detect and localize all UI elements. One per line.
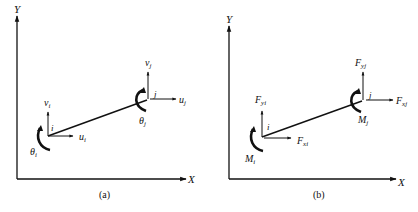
x-axis-label: X: [187, 173, 196, 185]
mj-label: Mj: [357, 114, 368, 127]
mi-moment-icon: [251, 129, 263, 151]
u-i-label: ui: [79, 131, 86, 144]
fyj-label: Fyj: [354, 57, 366, 70]
node-j: j Fyj Fxj Mj: [351, 57, 407, 127]
panel-a-caption: (a): [99, 189, 110, 201]
panel-b: Y X i Fyi Fxi Mi j Fyj Fxj Mj (b): [226, 13, 407, 201]
panel-a: Y X i vi ui θi j vj uj θj (a): [14, 3, 196, 201]
fyi-label: Fyi: [254, 94, 266, 107]
u-j-label: uj: [179, 94, 186, 107]
v-j-label: vj: [145, 57, 151, 70]
beam-element: [262, 101, 362, 137]
fxj-label: Fxj: [395, 95, 407, 108]
y-axis-label: Y: [14, 3, 22, 15]
beam-element-diagram: Y X i vi ui θi j vj uj θj (a): [0, 0, 418, 212]
fxi-label: Fxi: [296, 135, 308, 148]
panel-b-caption: (b): [313, 189, 325, 201]
node-i: i Fyi Fxi Mi: [244, 94, 308, 166]
node-j-label: j: [153, 89, 157, 99]
y-axis-label: Y: [226, 13, 234, 25]
node-i-label: i: [51, 123, 54, 133]
node-i: i vi ui θi: [30, 97, 86, 159]
node-j-label: j: [368, 90, 372, 100]
beam-element: [48, 100, 147, 136]
node-j: j vj uj θj: [136, 57, 186, 128]
v-i-label: vi: [44, 97, 50, 110]
mi-label: Mi: [244, 153, 255, 166]
x-axis-label: X: [397, 176, 406, 188]
theta-j-label: θj: [139, 115, 146, 128]
node-i-label: i: [267, 122, 270, 132]
theta-i-label: θi: [30, 146, 37, 159]
